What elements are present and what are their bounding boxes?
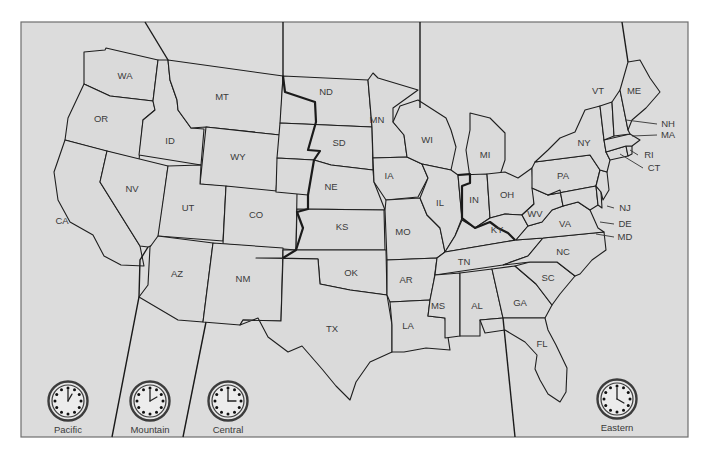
state-label-ga: GA [513,297,527,308]
state-label-ne: NE [324,181,337,192]
state-label-ut: UT [182,202,195,213]
callout-label-ri: RI [644,149,654,160]
state-label-mt: MT [215,91,229,102]
state-nd [280,76,372,127]
clock-eastern: Eastern [598,380,637,434]
state-label-ny: NY [577,137,591,148]
state-label-mi: MI [480,149,491,160]
state-label-mo: MO [395,226,410,237]
state-label-in: IN [469,194,479,205]
state-label-sd: SD [332,137,345,148]
state-label-pa: PA [557,170,570,181]
callout-label-nj: NJ [619,202,631,213]
state-label-ia: IA [385,170,395,181]
state-label-me: ME [627,85,641,96]
state-label-vt: VT [592,85,604,96]
callout-label-nh: NH [661,118,675,129]
state-label-ca: CA [55,215,69,226]
state-label-wa: WA [118,70,134,81]
time-zone-label-mountain: Mountain [130,424,169,435]
callout-label-de: DE [618,218,631,229]
time-zone-label-pacific: Pacific [54,424,82,435]
state-label-la: LA [402,320,414,331]
state-label-tx: TX [326,323,339,334]
state-label-ms: MS [431,300,445,311]
state-label-nm: NM [236,273,251,284]
state-label-nc: NC [556,246,570,257]
time-zone-label-central: Central [213,424,244,435]
state-nm [203,243,283,325]
state-label-nv: NV [125,183,139,194]
us-time-zone-map: WAORCANVIDMTWYUTCOAZNMNDSDNEKSOKTXMNIAMO… [0,0,708,454]
state-label-wv: WV [527,208,543,219]
state-label-ok: OK [344,267,358,278]
state-label-or: OR [94,113,108,124]
callout-label-ct: CT [648,162,661,173]
clock-pacific: Pacific [49,382,88,436]
time-zone-label-eastern: Eastern [601,422,634,433]
state-label-az: AZ [171,268,183,279]
state-label-sc: SC [541,272,554,283]
callout-label-md: MD [618,231,633,242]
state-label-tn: TN [458,256,471,267]
state-label-ky: KY [491,224,504,235]
clock-central: Central [209,382,248,436]
state-label-oh: OH [500,189,514,200]
state-label-co: CO [249,209,263,220]
state-label-fl: FL [536,338,547,349]
state-label-ks: KS [336,221,349,232]
clock-mountain: Mountain [130,382,169,436]
state-label-il: IL [436,197,444,208]
state-label-al: AL [471,300,483,311]
state-label-nd: ND [319,86,333,97]
state-label-mn: MN [370,114,385,125]
state-label-va: VA [559,218,572,229]
callout-label-ma: MA [661,129,676,140]
state-label-ar: AR [399,274,412,285]
state-label-id: ID [165,135,175,146]
state-label-wy: WY [230,151,246,162]
state-label-wi: WI [421,134,433,145]
